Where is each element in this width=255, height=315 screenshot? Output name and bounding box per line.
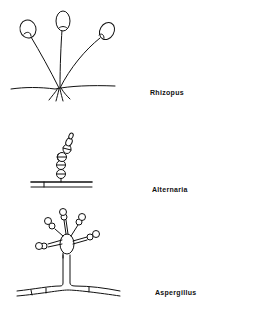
rhizopus-illustration [11,11,118,101]
aspergillus-illustration [17,209,120,297]
alternaria-label: Alternaria [152,186,188,193]
rhizopus-drawing [0,0,255,315]
rhizopus-label: Rhizopus [150,89,184,96]
alternaria-illustration [31,132,92,187]
aspergillus-label: Aspergillus [155,289,196,296]
